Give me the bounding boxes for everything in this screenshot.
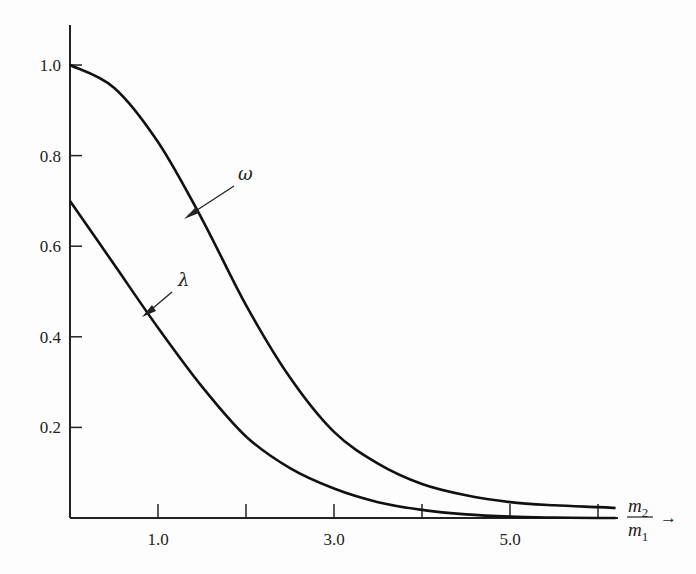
annotations: ω λ [142,163,253,317]
x-axis-label: m2 m1 → [627,495,677,544]
omega-arrowhead-icon [184,207,199,219]
x-tick-label: 5.0 [499,530,520,549]
y-tick-label: 0.8 [40,147,61,166]
omega-label: ω [238,163,253,184]
y-tick-label: 0.6 [40,237,61,256]
curves [70,65,616,518]
y-tick-label: 1.0 [40,56,61,75]
lambda-label: λ [177,269,189,290]
lambda-curve [70,201,616,518]
x-label-denominator: m1 [628,519,648,544]
x-tick-label: 1.0 [147,530,168,549]
x-label-numerator: m2 [628,495,648,520]
plot-area: 0.20.40.60.81.01.03.05.0 ω λ m2 m1 → [0,0,696,574]
ticks: 0.20.40.60.81.01.03.05.0 [40,56,598,549]
omega-curve [70,65,616,508]
x-tick-label: 3.0 [323,530,344,549]
x-arrow-icon: → [660,508,677,527]
chart-figure: 0.20.40.60.81.01.03.05.0 ω λ m2 m1 → [0,0,696,574]
axes [70,25,618,518]
y-tick-label: 0.4 [40,328,62,347]
y-tick-label: 0.2 [40,418,61,437]
